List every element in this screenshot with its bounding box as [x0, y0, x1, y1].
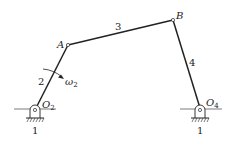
label-joint-a: A: [56, 39, 64, 50]
label-link-2: 2: [38, 76, 44, 87]
hatching-left: [27, 118, 44, 122]
label-ground-right: 1: [197, 125, 203, 136]
label-omega2: ω2: [65, 76, 78, 89]
four-bar-linkage-diagram: A B 3 4 2 ω2 O2 O4 1 1: [0, 0, 233, 145]
label-o2: O2: [42, 99, 55, 112]
pin-o2: [33, 108, 36, 111]
hatching-right: [192, 118, 209, 122]
pin-o4: [198, 108, 201, 111]
joint-a: [66, 43, 69, 46]
label-link-3: 3: [115, 21, 121, 32]
label-o4: O4: [206, 97, 219, 110]
label-link-4: 4: [189, 57, 195, 68]
label-ground-left: 1: [32, 125, 38, 136]
label-joint-b: B: [175, 10, 183, 21]
joint-b: [171, 18, 174, 21]
link-4-rocker: [173, 20, 200, 108]
